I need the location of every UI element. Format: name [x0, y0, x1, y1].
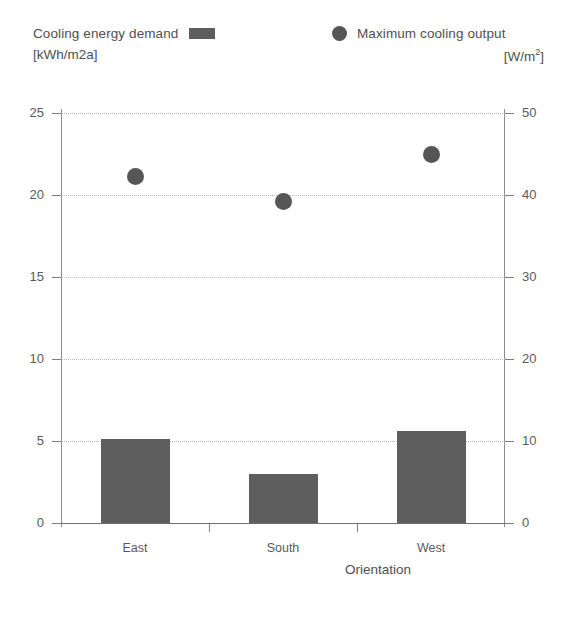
- left-axis-tick-label: 20: [4, 188, 44, 201]
- right-axis-tick: [505, 359, 514, 360]
- marker-west: [423, 146, 440, 163]
- marker-east: [127, 168, 144, 185]
- left-axis-tick-label: 0: [4, 516, 44, 529]
- bar-east: [101, 439, 170, 523]
- marker-south: [275, 193, 292, 210]
- legend-entry-cooling-energy-demand: Cooling energy demand [kWh/m2a]: [33, 26, 273, 62]
- x-axis-title: Orientation: [345, 562, 411, 577]
- right-axis-tick-label: 0: [522, 516, 562, 529]
- x-axis-label-east: East: [75, 541, 195, 555]
- right-axis-tick-label: 40: [522, 188, 562, 201]
- legend-unit-maximum-cooling-output: [W/m2]: [332, 47, 544, 64]
- right-axis-tick: [505, 277, 514, 278]
- left-axis-tick: [52, 277, 61, 278]
- gridline: [61, 277, 505, 278]
- bar-west: [397, 431, 466, 523]
- left-axis-tick-label: 5: [4, 434, 44, 447]
- legend-unit-suffix: ]: [540, 49, 544, 64]
- cooling-chart: Cooling energy demand [kWh/m2a] Maximum …: [0, 0, 568, 628]
- right-axis-tick: [505, 195, 514, 196]
- left-axis-spine: [61, 109, 62, 527]
- legend-entry-maximum-cooling-output: Maximum cooling output [W/m2]: [332, 26, 544, 64]
- x-axis-tick: [209, 523, 210, 532]
- gridline: [61, 113, 505, 114]
- bottom-axis-spine: [53, 523, 513, 524]
- legend-unit-cooling-energy-demand: [kWh/m2a]: [33, 47, 273, 62]
- left-axis-tick: [52, 113, 61, 114]
- left-axis-tick: [52, 359, 61, 360]
- right-axis-spine: [504, 109, 505, 527]
- legend-unit-prefix: [W/m: [504, 49, 536, 64]
- right-axis-tick: [505, 113, 514, 114]
- left-axis-tick: [52, 441, 61, 442]
- right-axis-tick-label: 50: [522, 106, 562, 119]
- left-axis-tick-label: 10: [4, 352, 44, 365]
- right-axis-tick-label: 20: [522, 352, 562, 365]
- left-axis-tick: [52, 195, 61, 196]
- square-swatch-icon: [189, 28, 215, 39]
- left-axis-tick-label: 25: [4, 106, 44, 119]
- x-axis-label-south: South: [223, 541, 343, 555]
- gridline: [61, 359, 505, 360]
- right-axis-tick: [505, 523, 514, 524]
- right-axis-tick: [505, 441, 514, 442]
- bar-south: [249, 474, 318, 523]
- plot-area: 051015202501020304050EastSouthWest: [61, 113, 505, 523]
- x-axis-label-west: West: [371, 541, 491, 555]
- left-axis-tick: [52, 523, 61, 524]
- left-axis-tick-label: 15: [4, 270, 44, 283]
- x-axis-tick: [357, 523, 358, 532]
- legend-label-maximum-cooling-output: Maximum cooling output: [357, 26, 506, 41]
- right-axis-tick-label: 10: [522, 434, 562, 447]
- chart-legend: Cooling energy demand [kWh/m2a] Maximum …: [0, 0, 568, 90]
- right-axis-tick-label: 30: [522, 270, 562, 283]
- legend-label-cooling-energy-demand: Cooling energy demand: [33, 26, 178, 41]
- circle-swatch-icon: [332, 26, 347, 41]
